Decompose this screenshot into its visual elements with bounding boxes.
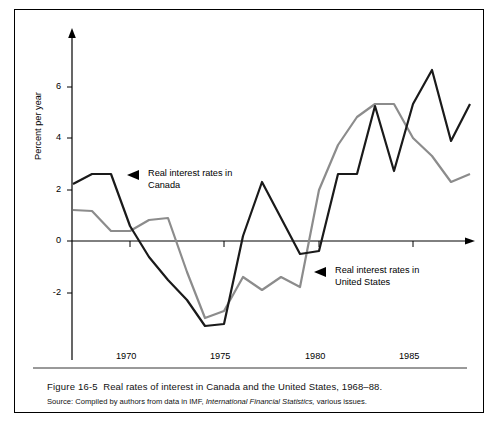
annotation-canada-line1: Real interest rates in [148, 167, 232, 179]
x-tick-label-1980: 1980 [305, 351, 325, 361]
figure-source-italic: International Financial Statistics, [206, 397, 315, 406]
annotation-canada: Real interest rates in Canada [148, 167, 232, 191]
y-tick-label-neg2: -2 [39, 287, 61, 297]
annotation-arrow-united-states [314, 267, 326, 277]
annotation-canada-line2: Canada [148, 179, 232, 191]
x-tick-label-1970: 1970 [116, 351, 136, 361]
annotation-united-states: Real interest rates in United States [335, 264, 419, 288]
y-tick-label-6: 6 [39, 81, 61, 91]
x-tick-label-1985: 1985 [399, 351, 419, 361]
figure-source: Source: Compiled by authors from data in… [47, 397, 467, 406]
y-tick-label-0: 0 [39, 235, 61, 245]
figure-source-prefix: Source: Compiled by authors from data in… [47, 397, 204, 406]
figure-number: Figure 16-5 [47, 381, 98, 392]
figure-source-suffix: various issues. [317, 397, 367, 406]
y-axis-label: Percent per year [33, 92, 43, 160]
y-tick-label-4: 4 [39, 132, 61, 142]
x-tick-label-1975: 1975 [210, 351, 230, 361]
figure-frame: Percent per year 6 4 2 0 -2 1970 1975 19… [14, 9, 484, 413]
figure-caption: Figure 16-5 Real rates of interest in Ca… [47, 381, 467, 392]
figure-page: Percent per year 6 4 2 0 -2 1970 1975 19… [0, 0, 501, 431]
annotation-united-states-line2: United States [335, 276, 419, 288]
annotation-united-states-line1: Real interest rates in [335, 264, 419, 276]
y-tick-label-2: 2 [39, 184, 61, 194]
figure-caption-text: Real rates of interest in Canada and the… [103, 381, 382, 392]
y-axis-arrow [68, 28, 76, 38]
figure-caption-area: Figure 16-5 Real rates of interest in Ca… [47, 381, 467, 406]
x-axis-arrow [465, 237, 475, 244]
annotation-arrow-canada [127, 170, 139, 180]
